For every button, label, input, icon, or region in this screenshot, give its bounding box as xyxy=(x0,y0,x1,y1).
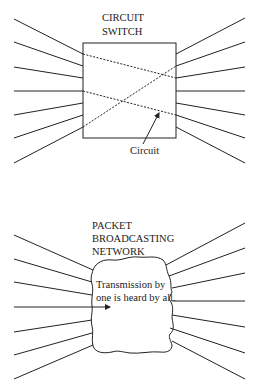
left-station-line xyxy=(14,282,92,295)
right-station-line xyxy=(169,248,245,276)
right-station-line xyxy=(170,328,245,353)
left-station-line xyxy=(14,345,93,379)
circuit-connection-dotted xyxy=(83,91,176,115)
left-port-line xyxy=(14,42,83,66)
switch-left-lines xyxy=(14,19,83,163)
circuit-connection-dotted xyxy=(83,66,176,127)
network-right-lines xyxy=(166,223,245,379)
diagram-canvas: CIRCUIT SWITCH Circuit xyxy=(0,0,256,392)
right-port-line xyxy=(176,18,245,54)
right-port-line xyxy=(176,42,245,66)
left-port-line xyxy=(14,19,83,54)
left-station-line xyxy=(14,235,93,270)
circuit-connections xyxy=(83,54,176,127)
right-station-line xyxy=(166,223,245,265)
left-port-line xyxy=(14,127,83,163)
switch-right-lines xyxy=(176,18,245,163)
right-station-line xyxy=(172,341,245,379)
circuit-switch-title-line1: CIRCUIT xyxy=(102,12,145,23)
right-port-line xyxy=(176,127,245,163)
left-station-line xyxy=(14,320,92,332)
circuit-label: Circuit xyxy=(130,145,159,156)
left-port-line xyxy=(14,67,83,78)
right-port-line xyxy=(176,67,245,78)
left-port-line xyxy=(14,115,83,138)
right-port-line xyxy=(176,115,245,138)
circuit-switch-diagram: CIRCUIT SWITCH Circuit xyxy=(14,12,245,163)
left-station-line xyxy=(14,259,92,282)
right-station-line xyxy=(172,315,245,327)
packet-network-title-line1: PACKET xyxy=(92,220,132,231)
right-station-line xyxy=(172,273,245,288)
right-port-line xyxy=(176,103,245,115)
broadcast-caption-line2: one is heard by all. xyxy=(96,292,176,303)
packet-network-diagram: PACKET BROADCASTING NETWORK Transmission… xyxy=(14,220,245,379)
broadcast-cloud xyxy=(91,257,173,353)
circuit-switch-title-line2: SWITCH xyxy=(102,26,143,37)
broadcast-caption-line1: Transmission by xyxy=(96,279,166,290)
left-station-line xyxy=(14,333,92,355)
circuit-pointer-arrow xyxy=(143,113,159,144)
left-port-line xyxy=(14,103,83,115)
packet-network-title-line3: NETWORK xyxy=(92,246,145,257)
circuit-connection-dotted xyxy=(83,54,176,78)
packet-network-title-line2: BROADCASTING xyxy=(92,233,175,244)
